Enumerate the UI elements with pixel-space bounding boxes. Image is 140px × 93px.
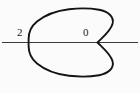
cardioid-figure: 2 0 bbox=[0, 0, 140, 93]
axis-label-left-intercept: 2 bbox=[17, 27, 23, 38]
plot-canvas bbox=[0, 0, 140, 93]
axis-label-origin: 0 bbox=[83, 27, 89, 38]
